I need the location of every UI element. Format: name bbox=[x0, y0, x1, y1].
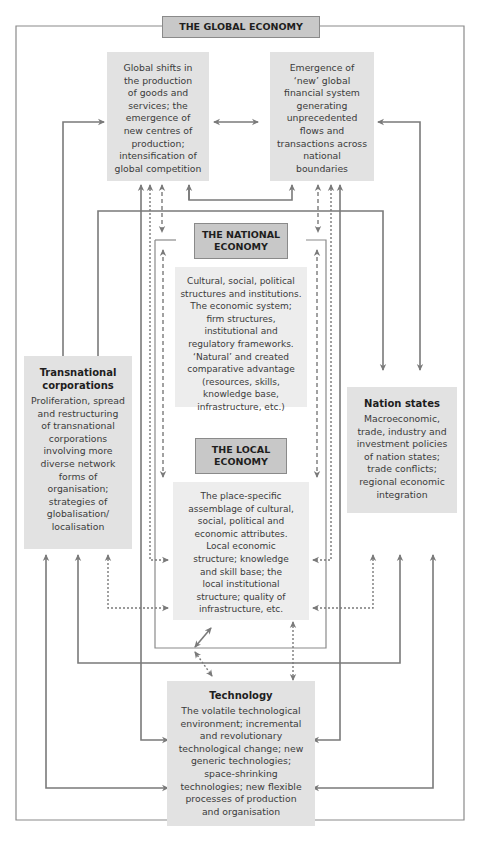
nation-states-box: Nation states Macroeconomic, trade, indu… bbox=[347, 387, 457, 513]
global-production-box: Global shifts in the production of goods… bbox=[107, 52, 209, 181]
global-finance-text: Emergence of ‘new’ global financial syst… bbox=[274, 62, 370, 175]
national-economy-header: THE NATIONAL ECONOMY bbox=[194, 223, 288, 259]
global-economy-header: THE GLOBAL ECONOMY bbox=[162, 16, 320, 38]
global-finance-box: Emergence of ‘new’ global financial syst… bbox=[270, 52, 374, 181]
global-production-text: Global shifts in the production of goods… bbox=[111, 62, 205, 175]
local-economy-box: The place-specific assemblage of cultura… bbox=[173, 482, 309, 620]
national-economy-box: Cultural, social, political structures a… bbox=[175, 267, 307, 407]
transnational-corporations-title: Transnational corporations bbox=[28, 366, 128, 392]
global-economy-diagram: THE GLOBAL ECONOMY Global shifts in the … bbox=[0, 0, 479, 843]
national-economy-text: Cultural, social, political structures a… bbox=[179, 275, 303, 414]
technology-title: Technology bbox=[171, 689, 311, 702]
local-economy-header: THE LOCAL ECONOMY bbox=[195, 438, 287, 474]
transnational-corporations-text: Proliferation, spread and restructuring … bbox=[28, 395, 128, 534]
technology-box: Technology The volatile technological en… bbox=[167, 681, 315, 826]
nation-states-title: Nation states bbox=[351, 397, 453, 410]
technology-text: The volatile technological environment; … bbox=[171, 705, 311, 818]
local-economy-text: The place-specific assemblage of cultura… bbox=[177, 490, 305, 616]
nation-states-text: Macroeconomic, trade, industry and inves… bbox=[351, 413, 453, 501]
transnational-corporations-box: Transnational corporations Proliferation… bbox=[24, 356, 132, 549]
